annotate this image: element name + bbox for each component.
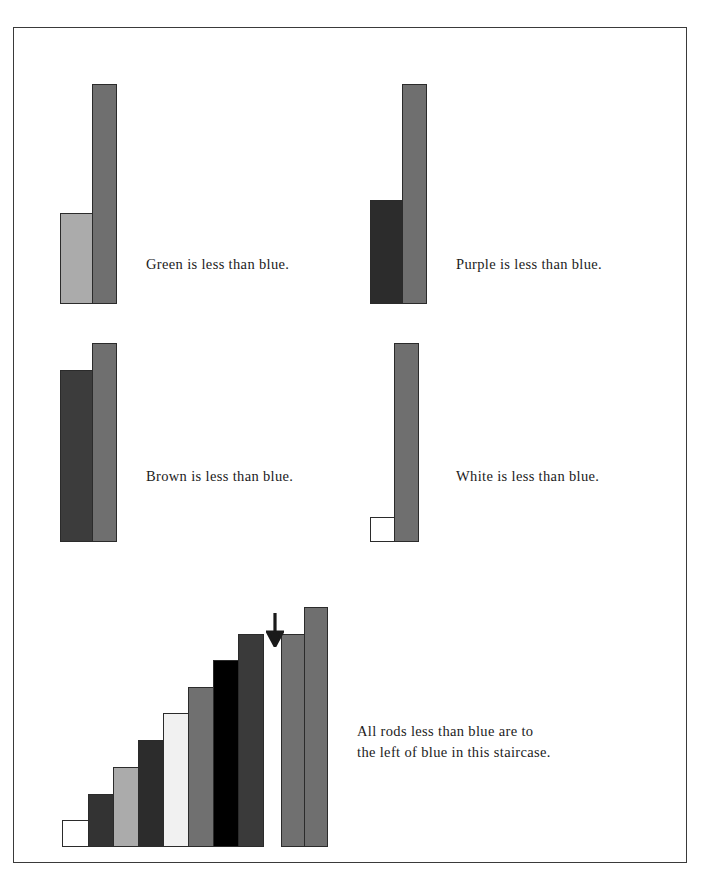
caption-green-vs-blue: Green is less than blue. [146, 254, 289, 274]
rod-purple [370, 200, 404, 304]
rod-blue [92, 343, 117, 542]
page-frame: Green is less than blue. Purple is less … [13, 27, 687, 863]
caption-white-vs-blue: White is less than blue. [456, 466, 599, 486]
staircase-rod-brown [238, 634, 264, 847]
staircase-rod-blue [281, 634, 305, 847]
staircase-rod-dark-green [188, 687, 214, 847]
caption-brown-vs-blue: Brown is less than blue. [146, 466, 293, 486]
rod-blue [92, 84, 117, 304]
staircase-block: All rods less than blue are to the left … [60, 581, 670, 841]
comparison-green-vs-blue: Green is less than blue. [60, 58, 320, 298]
comparison-white-vs-blue: White is less than blue. [370, 318, 650, 558]
rod-blue [394, 343, 419, 542]
rod-brown [60, 370, 94, 542]
staircase-rod-white [62, 820, 89, 847]
caption-staircase-line1: All rods less than blue are to [357, 721, 627, 741]
rod-green [60, 213, 94, 304]
staircase-rod-purple [138, 740, 164, 847]
rod-blue [402, 84, 427, 304]
staircase-rod-black [213, 660, 239, 847]
staircase-rod-orange [304, 607, 328, 847]
worksheet-page: Green is less than blue. Purple is less … [0, 0, 702, 881]
caption-purple-vs-blue: Purple is less than blue. [456, 254, 602, 274]
caption-staircase-line2: the left of blue in this staircase. [357, 742, 627, 762]
staircase-rod-red [88, 794, 114, 847]
rod-white [370, 517, 396, 542]
staircase-rod-green [113, 767, 139, 847]
staircase-rod-yellow [163, 713, 189, 847]
down-arrow-icon [266, 613, 284, 647]
comparison-purple-vs-blue: Purple is less than blue. [370, 58, 650, 298]
comparison-brown-vs-blue: Brown is less than blue. [60, 318, 340, 558]
